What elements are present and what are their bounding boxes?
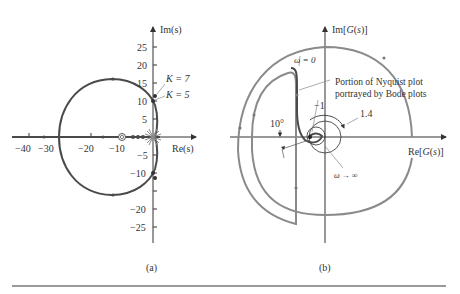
omega-zero-label: ω = 0 [294, 55, 316, 65]
caption-a: (a) [146, 262, 157, 274]
magnitude-label: 1.4 [360, 108, 373, 119]
y-tick-label: −25 [130, 222, 146, 233]
y-tick-label: 25 [137, 42, 147, 53]
k5-label: K = 5 [165, 89, 189, 100]
minus-one-point [308, 135, 312, 139]
panel-a-root-locus: Im(s) Re(s) −40 −30 −20 −10 25 20 15 10 … [12, 24, 196, 274]
im-axis-label-b: Im[G(s)] [332, 24, 368, 36]
zero-marker [119, 134, 126, 141]
k7-point [153, 94, 157, 98]
x-tick-label: −20 [78, 143, 94, 154]
y-tick-label: 15 [137, 78, 147, 89]
figure-canvas: Im(s) Re(s) −40 −30 −20 −10 25 20 15 10 … [0, 0, 460, 294]
y-tick-label: −10 [130, 168, 146, 179]
minus-one-label: −1 [314, 100, 325, 111]
nyquist-outer-lower [252, 137, 412, 215]
y-tick-label: 5 [142, 114, 147, 125]
angle-label: 10° [270, 118, 284, 129]
portion-label-line2: portrayed by Bode plots [335, 89, 427, 99]
k5-point [151, 99, 155, 103]
panel-b-nyquist: Im[G(s)] Re[G(s)] ω = 0 Portion of Nyqui… [230, 24, 446, 274]
x-tick-label: −10 [109, 143, 125, 154]
y-tick-label: −5 [137, 150, 148, 161]
x-tick-label: −30 [38, 143, 54, 154]
portion-label-line1: Portion of Nyquist plot [335, 77, 423, 87]
re-axis-label-a: Re(s) [172, 143, 194, 155]
y-tick-label: 20 [137, 60, 147, 71]
x-tick-label: −40 [15, 143, 31, 154]
re-axis-label-b: Re[G(s)] [408, 146, 444, 158]
im-axis-label-a: Im(s) [160, 24, 182, 36]
omega-inf-label: ω → ∞ [334, 171, 358, 180]
k7-label: K = 7 [165, 73, 190, 84]
caption-b: (b) [319, 262, 331, 274]
nyquist-left-outer [238, 150, 296, 224]
y-tick-label: −20 [130, 204, 146, 215]
y-tick-label: 10 [137, 96, 147, 107]
